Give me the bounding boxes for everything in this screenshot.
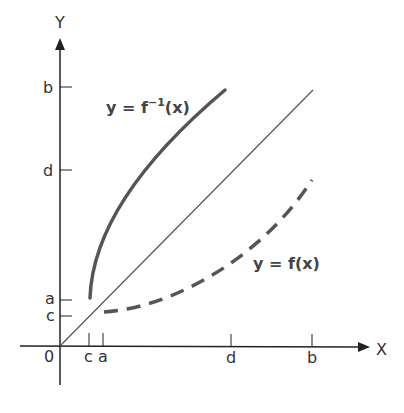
x-tick-c: c bbox=[84, 347, 93, 366]
y-tick-b: b bbox=[43, 78, 53, 97]
function-curve bbox=[104, 180, 312, 312]
x-axis-label: X bbox=[376, 340, 387, 359]
y-tick-c: c bbox=[46, 306, 55, 325]
origin-label: 0 bbox=[44, 347, 54, 366]
function-label: y = f(x) bbox=[253, 254, 320, 273]
y-tick-d: d bbox=[43, 161, 53, 180]
x-tick-d: d bbox=[226, 348, 236, 367]
y-axis-label: Y bbox=[54, 13, 65, 32]
identity-line bbox=[60, 90, 313, 346]
inverse-function-diagram: Y X 0 b d a c c a d b y = f−1(x) y = f(x… bbox=[0, 0, 404, 413]
y-axis-arrow-icon bbox=[55, 38, 65, 50]
x-tick-b: b bbox=[307, 348, 317, 367]
x-axis bbox=[20, 346, 360, 347]
x-axis-arrow-icon bbox=[358, 342, 370, 352]
x-tick-a: a bbox=[98, 347, 108, 366]
inverse-function-label: y = f−1(x) bbox=[106, 96, 190, 117]
inverse-function-curve bbox=[90, 90, 225, 298]
